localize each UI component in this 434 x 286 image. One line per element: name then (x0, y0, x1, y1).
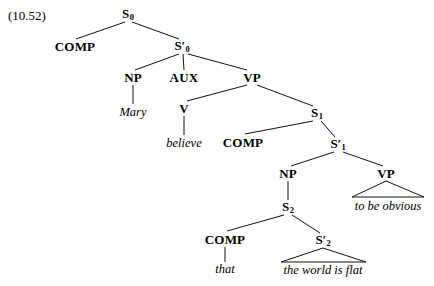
node-subscript: 2 (326, 238, 330, 248)
leaf-believe: believe (166, 137, 201, 150)
tree-node-s0: S0 (122, 7, 134, 22)
tree-node-comp1: COMP (223, 136, 264, 149)
node-label: S (122, 6, 129, 21)
node-label: NP (124, 70, 142, 85)
tree-branch (257, 85, 313, 106)
node-subscript: 0 (185, 44, 189, 54)
tree-node-vp0: VP (243, 71, 261, 84)
tree-branch (227, 215, 284, 231)
triangle-vp1 (352, 181, 424, 197)
tree-node-sbar2: S′2 (315, 233, 330, 248)
node-subscript: 2 (290, 205, 294, 215)
node-label: COMP (55, 39, 96, 54)
tree-branch (187, 85, 247, 101)
tree-branch (245, 121, 313, 134)
node-label: COMP (223, 135, 264, 150)
node-subscript: 1 (319, 111, 323, 121)
node-label: V (179, 101, 189, 116)
tree-node-sbar0: S′0 (174, 39, 189, 54)
node-subscript: 0 (130, 12, 134, 22)
tree-node-comp0: COMP (55, 40, 96, 53)
node-label: VP (243, 70, 261, 85)
tree-branch (188, 54, 247, 70)
leaf-mary: Mary (119, 106, 146, 119)
tree-branch (135, 54, 179, 70)
tree-node-np0: NP (124, 71, 142, 84)
tree-branch (183, 54, 184, 70)
syntax-tree-figure: (10.52) S0COMPS′0NPAUXVPVS1COMPS′1NPVPS2… (0, 0, 434, 286)
triangle-sbar2 (281, 248, 366, 262)
node-label: S (311, 105, 318, 120)
tree-node-sbar1: S′1 (330, 137, 345, 152)
leaf-flat: the world is flat (284, 264, 363, 277)
tree-branch (343, 152, 383, 166)
tree-node-np1: NP (279, 167, 297, 180)
leaf-that: that (215, 263, 234, 276)
tree-node-comp2: COMP (205, 233, 246, 246)
node-label: S (282, 199, 289, 214)
tree-node-vp1: VP (377, 167, 395, 180)
node-label: VP (377, 166, 395, 181)
node-subscript: 1 (341, 142, 345, 152)
figure-number-label: (10.52) (8, 9, 46, 22)
tree-branch (292, 215, 320, 233)
tree-node-v: V (179, 102, 189, 115)
tree-node-aux: AUX (170, 71, 199, 84)
node-label: NP (279, 166, 297, 181)
tree-node-s1: S1 (311, 106, 323, 121)
tree-node-s2: S2 (282, 200, 294, 215)
tree-branch (76, 22, 125, 39)
tree-branch (291, 152, 334, 166)
tree-branch (132, 22, 179, 39)
node-label: AUX (170, 70, 199, 85)
leaf-obvious: to be obvious (355, 200, 422, 213)
node-label: COMP (205, 232, 246, 247)
